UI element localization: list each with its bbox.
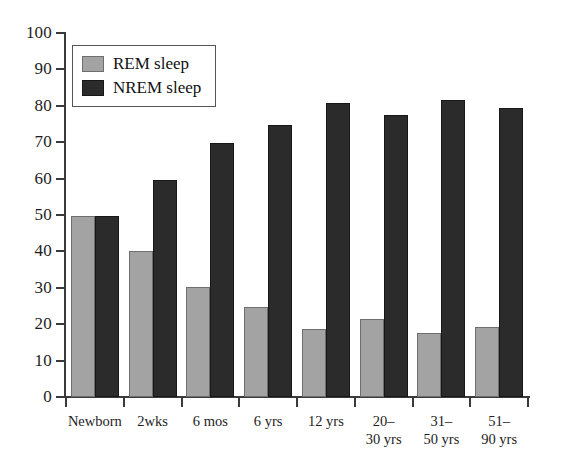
x-axis-tick-label-line: 51– bbox=[470, 412, 528, 430]
x-axis-tick bbox=[238, 397, 240, 407]
x-axis-tick-label-line: 6 yrs bbox=[239, 412, 297, 430]
y-axis-tick-label: 20 bbox=[2, 314, 52, 334]
legend-label-rem: REM sleep bbox=[113, 54, 189, 74]
bar-nrem bbox=[95, 216, 119, 397]
x-axis-tick bbox=[527, 397, 529, 407]
bar-rem bbox=[129, 251, 153, 397]
y-axis-tick bbox=[56, 250, 65, 252]
x-axis-tick bbox=[354, 397, 356, 407]
y-axis-tick bbox=[56, 287, 65, 289]
x-axis-tick-label-line: 6 mos bbox=[182, 412, 240, 430]
y-axis-tick-label: 0 bbox=[2, 387, 52, 407]
bar-rem bbox=[244, 307, 268, 397]
x-axis-tick-label: Newborn bbox=[66, 412, 124, 430]
legend-swatch-rem-icon bbox=[82, 56, 104, 72]
legend-label-nrem: NREM sleep bbox=[113, 78, 201, 98]
y-axis-tick-label: 90 bbox=[2, 59, 52, 79]
bar-nrem bbox=[153, 180, 177, 397]
chart-legend: REM sleep NREM sleep bbox=[72, 45, 216, 107]
x-axis-tick-label-line: 2wks bbox=[124, 412, 182, 430]
y-axis-tick bbox=[56, 360, 65, 362]
x-axis-tick bbox=[469, 397, 471, 407]
y-axis-tick bbox=[56, 105, 65, 107]
x-axis-tick bbox=[412, 397, 414, 407]
y-axis-tick-label: 80 bbox=[2, 96, 52, 116]
legend-item-rem: REM sleep bbox=[82, 52, 201, 76]
y-axis-tick-label: 100 bbox=[2, 23, 52, 43]
x-axis-tick-label: 31–50 yrs bbox=[413, 412, 471, 448]
x-axis-tick bbox=[65, 397, 67, 407]
bar-nrem bbox=[210, 143, 234, 397]
sleep-stage-bar-chart: 0102030405060708090100 Newborn2wks6 mos6… bbox=[0, 0, 561, 474]
y-axis-tick bbox=[56, 396, 65, 398]
y-axis-tick bbox=[56, 178, 65, 180]
x-axis-tick-label-line: Newborn bbox=[66, 412, 124, 430]
bar-rem bbox=[71, 216, 95, 397]
x-axis-tick-label: 20–30 yrs bbox=[355, 412, 413, 448]
y-axis-tick bbox=[56, 68, 65, 70]
y-axis-tick-label: 50 bbox=[2, 205, 52, 225]
y-axis-tick bbox=[56, 141, 65, 143]
x-axis-tick-label-line: 12 yrs bbox=[297, 412, 355, 430]
bar-rem bbox=[475, 327, 499, 397]
bar-nrem bbox=[441, 100, 465, 397]
bar-nrem bbox=[384, 115, 408, 397]
y-axis-tick-label: 40 bbox=[2, 241, 52, 261]
y-axis-tick bbox=[56, 323, 65, 325]
x-axis-tick-label-line: 20– bbox=[355, 412, 413, 430]
x-axis-tick-label-line: 30 yrs bbox=[355, 430, 413, 448]
bar-nrem bbox=[326, 103, 350, 397]
x-axis-tick-label-line: 90 yrs bbox=[470, 430, 528, 448]
x-axis-tick-label: 6 yrs bbox=[239, 412, 297, 430]
x-axis-tick-label: 12 yrs bbox=[297, 412, 355, 430]
bar-nrem bbox=[499, 108, 523, 397]
bar-rem bbox=[417, 333, 441, 397]
x-axis-tick-label: 6 mos bbox=[182, 412, 240, 430]
y-axis-tick-label: 70 bbox=[2, 132, 52, 152]
x-axis-tick-label: 51–90 yrs bbox=[470, 412, 528, 448]
bar-rem bbox=[302, 329, 326, 397]
x-axis-tick-label-line: 50 yrs bbox=[413, 430, 471, 448]
x-axis-tick-label-line: 31– bbox=[413, 412, 471, 430]
y-axis-tick bbox=[56, 32, 65, 34]
bar-nrem bbox=[268, 125, 292, 397]
bar-rem bbox=[186, 287, 210, 397]
legend-item-nrem: NREM sleep bbox=[82, 76, 201, 100]
x-axis-tick bbox=[181, 397, 183, 407]
y-axis-tick-label: 30 bbox=[2, 278, 52, 298]
x-axis-tick bbox=[296, 397, 298, 407]
y-axis-tick bbox=[56, 214, 65, 216]
bar-rem bbox=[360, 319, 384, 397]
x-axis-tick bbox=[123, 397, 125, 407]
y-axis-tick-label: 60 bbox=[2, 169, 52, 189]
legend-swatch-nrem-icon bbox=[82, 80, 104, 96]
y-axis-tick-label: 10 bbox=[2, 351, 52, 371]
x-axis-tick-label: 2wks bbox=[124, 412, 182, 430]
